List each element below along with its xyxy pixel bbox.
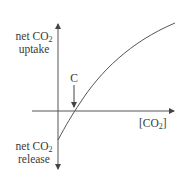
- x-axis-label: [CO2]: [139, 117, 167, 130]
- point-c-label: C: [69, 72, 79, 85]
- x-label-suffix: ]: [163, 117, 167, 129]
- x-label-prefix: [CO: [139, 117, 159, 129]
- top-label-line2: uptake: [19, 43, 50, 55]
- bottom-label-line2: release: [18, 153, 50, 165]
- y-axis-top-label: net CO2 uptake: [12, 30, 56, 56]
- y-axis-bottom-label: net CO2 release: [12, 140, 56, 166]
- bottom-label-line1: net CO: [16, 140, 49, 152]
- top-label-line1: net CO: [16, 30, 49, 42]
